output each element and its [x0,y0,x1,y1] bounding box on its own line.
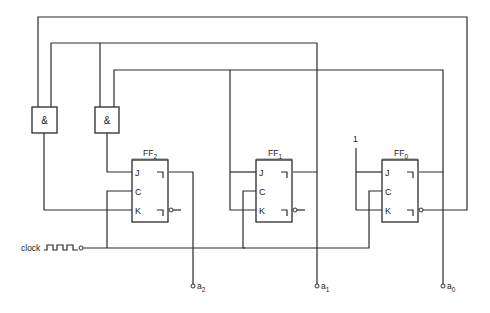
flipflop-ff2: FF2 J C K [132,148,181,222]
wire-and2-to-ff2-j [107,133,132,172]
ff0-pin-k: K [385,206,391,216]
ff1-pin-j: J [259,168,264,178]
ff2-pin-k: K [135,206,141,216]
ff0-index: 0 [404,153,408,160]
ff0-pin-j: J [385,168,390,178]
wire-bus3-to-ff1-jk [230,70,256,210]
svg-text:a1: a1 [321,281,330,293]
counter-circuit-diagram: & & FF2 J C K FF1 J C K FF0 J C K [0,0,490,313]
ff0-pin-c: C [385,187,392,197]
ff2-pin-c: C [135,187,142,197]
svg-text:FF0: FF0 [394,148,408,160]
ff2-qbar-inversion-icon [169,208,173,212]
wire-clock-ff1-c [243,191,256,248]
svg-text:FF2: FF2 [143,148,157,160]
output-a2-terminal [191,284,195,288]
ff0-name: FF [394,148,404,158]
ff1-index: 1 [278,153,282,160]
ff1-pin-k: K [259,206,265,216]
wire-ff2-q-to-a2 [169,172,193,284]
svg-text:a2: a2 [197,281,206,293]
clock-label: clock [21,243,41,253]
clock-waveform-icon [44,245,78,250]
output-a1-terminal [315,284,319,288]
output-a0-terminal [441,284,445,288]
output-a1-index: 1 [326,286,330,293]
output-a0-index: 0 [452,286,456,293]
svg-text:a0: a0 [447,281,456,293]
and-gate-2-symbol: & [104,115,111,126]
and-gate-1-symbol: & [41,115,48,126]
clock-input-terminal [79,246,83,250]
flipflop-ff0: FF0 J C K [382,148,423,222]
ff1-qbar-inversion-icon [293,208,297,212]
svg-text:FF1: FF1 [268,148,282,160]
ff2-index: 2 [153,153,157,160]
constant-one-label: 1 [353,134,358,144]
ff2-name: FF [143,148,153,158]
ff1-pin-c: C [259,187,266,197]
ff0-qbar-inversion-icon [419,208,423,212]
output-a2-index: 2 [202,286,206,293]
ff2-pin-j: J [135,168,140,178]
wire-clock-ff2-c [107,191,132,248]
flipflop-ff1: FF1 J C K [256,148,305,222]
ff1-name: FF [268,148,278,158]
